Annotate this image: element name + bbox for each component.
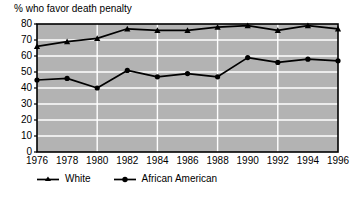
plot-area [0,0,351,198]
y-axis-tick-label: 50 [10,67,32,77]
x-axis-tick-label: 1986 [172,156,204,166]
x-axis-tick-label: 1982 [111,156,143,166]
y-axis-tick-label: 40 [10,83,32,93]
chart-legend: WhiteAfrican American [36,173,217,185]
chart-canvas [0,0,351,198]
legend-marker-circle-icon [113,174,137,185]
legend-marker-triangle-icon [36,174,60,185]
x-axis-tick-label: 1988 [202,156,234,166]
y-axis-tick-label: 80 [10,19,32,29]
legend-entry-white[interactable]: White [36,173,91,185]
chart-container: % who favor death penalty 80706050403020… [0,0,351,198]
y-axis-tick-label: 10 [10,131,32,141]
y-axis-tick-label: 60 [10,51,32,61]
data-point-african-american [34,77,39,82]
y-axis-tick-label: 20 [10,115,32,125]
data-point-african-american [335,58,340,63]
legend-label: White [65,173,91,185]
x-axis-tick-label: 1992 [262,156,294,166]
y-axis-tick-label: 70 [10,35,32,45]
x-axis-tick-label: 1976 [21,156,53,166]
x-axis-tick-label: 1996 [322,156,351,166]
x-axis-tick-label: 1990 [232,156,264,166]
data-point-african-american [215,74,220,79]
legend-label: African American [142,173,218,185]
data-point-african-american [245,55,250,60]
x-axis-tick-label: 1978 [51,156,83,166]
x-axis-tick-label: 1980 [81,156,113,166]
data-point-african-american [275,60,280,65]
data-point-african-american [185,71,190,76]
data-point-african-american [155,74,160,79]
data-point-african-american [125,68,130,73]
data-point-african-american [95,85,100,90]
x-axis-tick-label: 1984 [141,156,173,166]
data-point-african-american [65,76,70,81]
x-axis-tick-label: 1994 [292,156,324,166]
y-axis-tick-label: 30 [10,99,32,109]
legend-entry-african-american[interactable]: African American [113,173,218,185]
data-point-african-american [305,57,310,62]
